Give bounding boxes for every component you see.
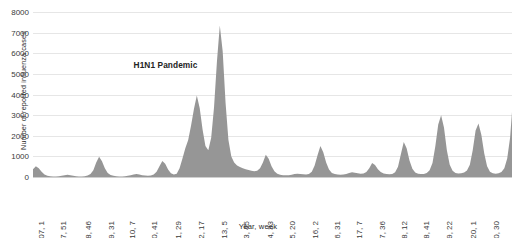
y-tick-label: 1000 [11,152,29,161]
y-tick-label: 6000 [11,49,29,58]
y-tick-label: 5000 [11,69,29,78]
y-tick-label: 4000 [11,90,29,99]
y-tick-label: 0 [25,173,29,182]
y-tick-label: 7000 [11,28,29,37]
chart-annotation: H1N1 Pandemic [134,60,198,70]
x-axis-tick-labels: 2007, 12007, 512008, 462009, 312010, 720… [33,179,512,223]
y-tick-label: 2000 [11,131,29,140]
plot-area: H1N1 Pandemic [33,12,512,177]
x-axis-title: Year, week [0,222,516,231]
y-tick-label: 3000 [11,111,29,120]
y-axis-tick-labels: 010002000300040005000600070008000 [0,0,32,238]
gridline-0 [33,177,512,178]
influenza-cases-chart: Number of reported influenza cases 01000… [0,0,516,238]
y-tick-label: 8000 [11,8,29,17]
influenza-area-series [33,12,512,177]
